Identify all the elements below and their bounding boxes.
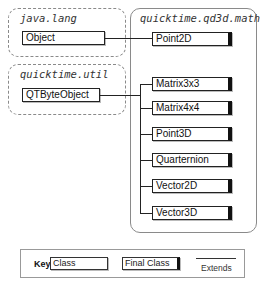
class-object[interactable]: Object xyxy=(22,31,105,45)
legend: Key Class Final Class Extends xyxy=(20,249,245,278)
class-vector3d[interactable]: Vector3D xyxy=(152,206,232,220)
edge-branch-matrix3x3 xyxy=(140,84,152,85)
edge-qtbyteobject-trunk xyxy=(100,95,140,96)
package-label-quicktime-qd3d-math: quicktime.qd3d.math xyxy=(140,12,260,24)
class-qtbyteobject[interactable]: QTByteObject xyxy=(22,88,100,102)
class-point3d[interactable]: Point3D xyxy=(152,127,232,141)
package-label-java-lang: java.lang xyxy=(20,12,77,24)
legend-class-sample: Class xyxy=(50,257,108,270)
legend-extends-label: Extends xyxy=(201,263,232,273)
edge-branch-vector3d xyxy=(140,213,152,214)
legend-final-class-sample: Final Class xyxy=(122,257,180,270)
package-label-quicktime-util: quicktime.util xyxy=(20,68,109,80)
edge-branch-vector2d xyxy=(140,186,152,187)
class-matrix3x3[interactable]: Matrix3x3 xyxy=(152,77,232,91)
edge-trunk-vertical xyxy=(140,84,141,214)
edge-branch-matrix4x4 xyxy=(140,108,152,109)
edge-object-point2d xyxy=(105,38,152,39)
class-quarternion[interactable]: Quarternion xyxy=(152,153,232,167)
edge-branch-point3d xyxy=(140,134,152,135)
legend-title: Key xyxy=(34,259,51,269)
class-point2d[interactable]: Point2D xyxy=(152,32,232,46)
edge-branch-quarternion xyxy=(140,160,152,161)
class-vector2d[interactable]: Vector2D xyxy=(152,179,232,193)
legend-extends-line xyxy=(196,258,236,259)
class-matrix4x4[interactable]: Matrix4x4 xyxy=(152,101,232,115)
